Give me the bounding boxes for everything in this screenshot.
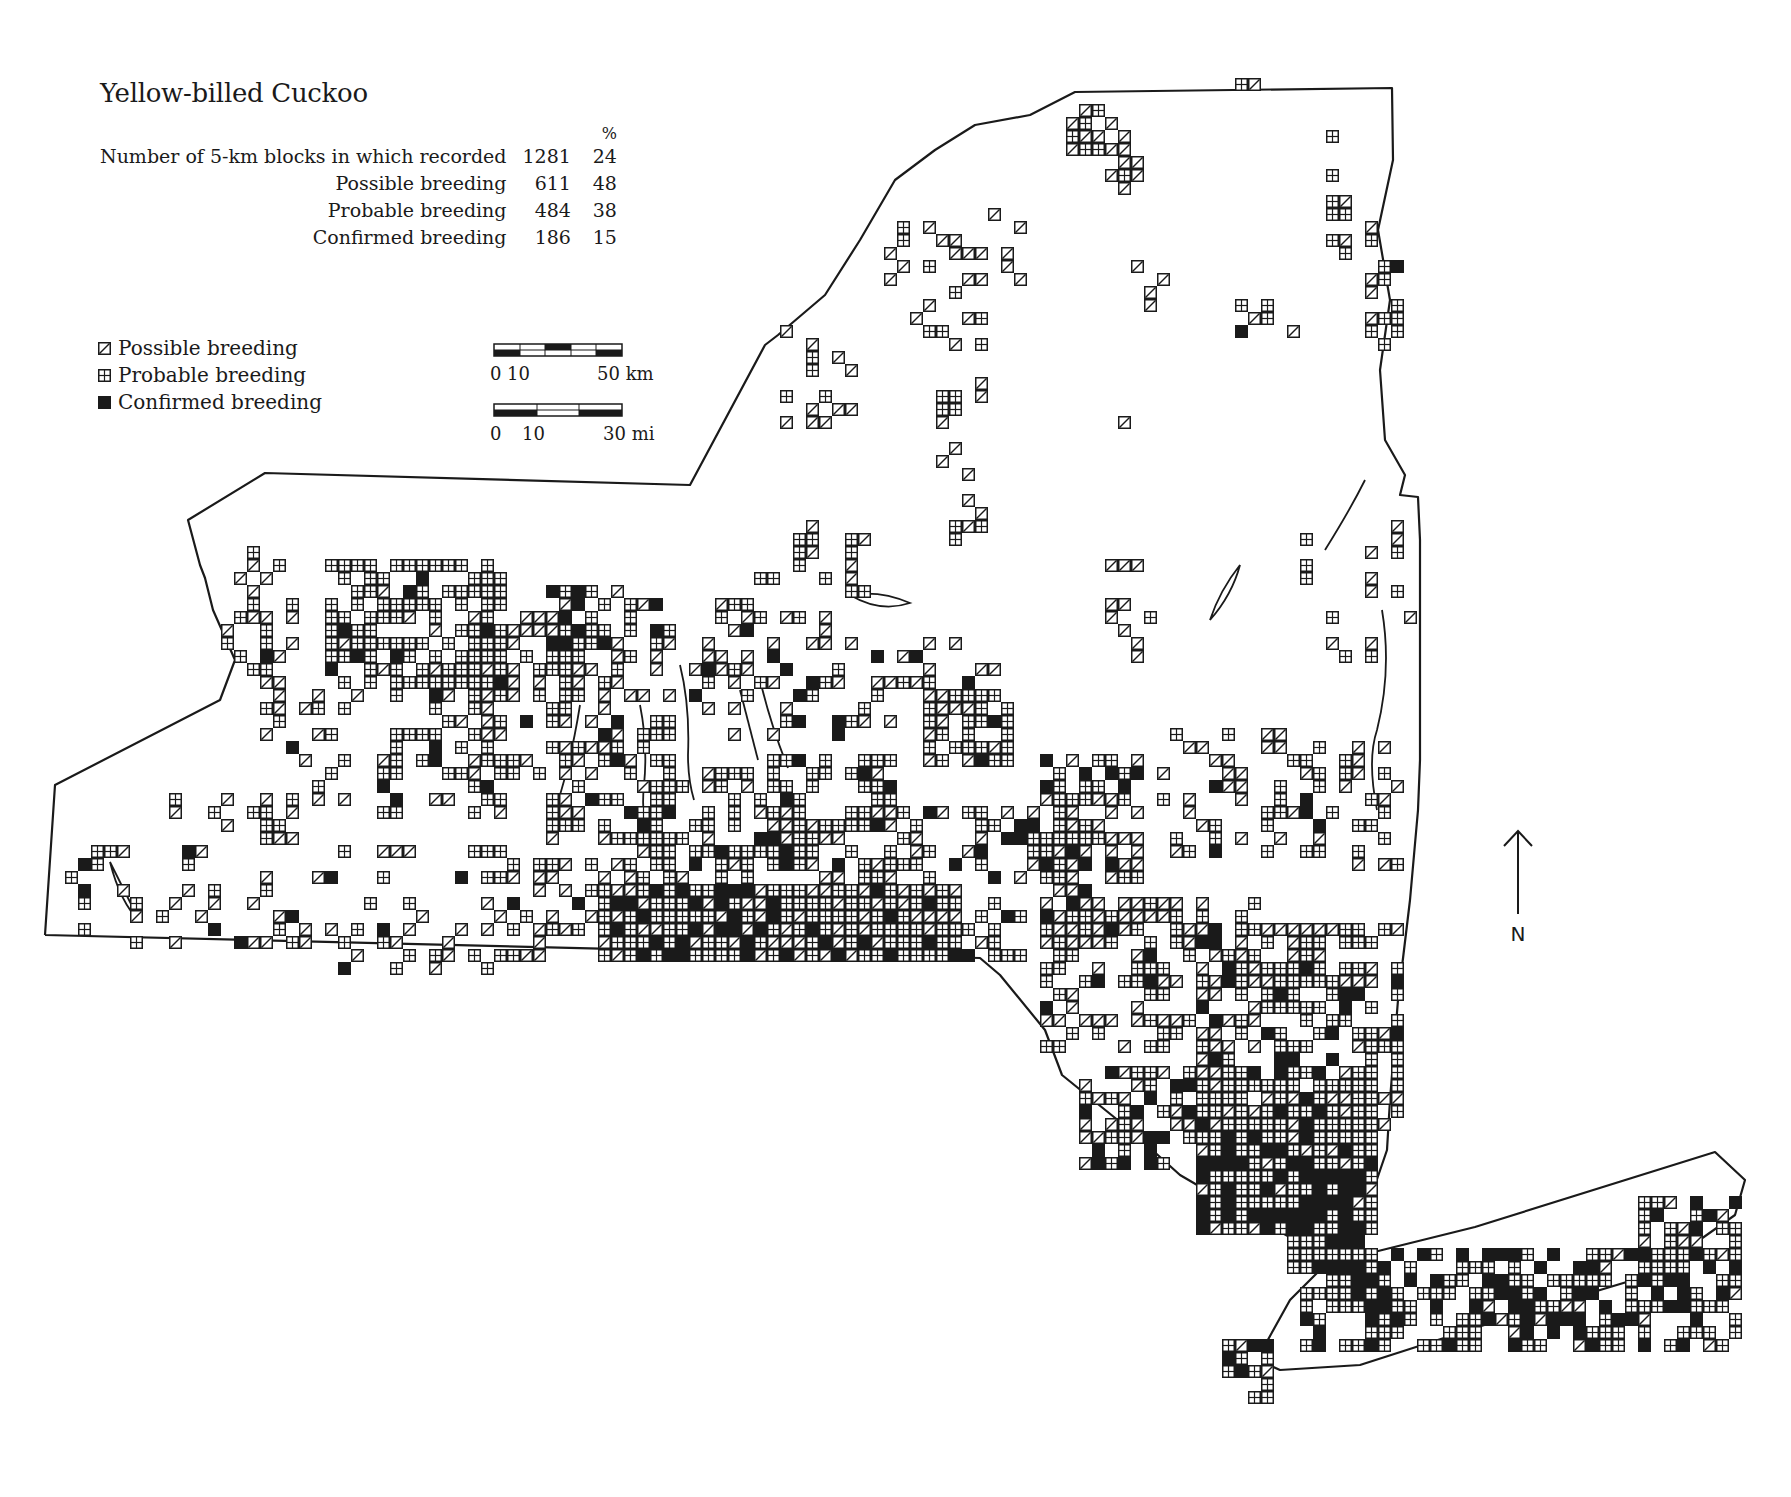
probable-block <box>1366 1249 1378 1261</box>
confirmed-block <box>1287 1222 1300 1235</box>
possible-block <box>1054 885 1066 897</box>
probable-block <box>1119 1145 1131 1157</box>
possible-block <box>638 690 650 702</box>
possible-block <box>820 638 832 650</box>
probable-block <box>1366 1145 1378 1157</box>
probable-block <box>248 599 260 611</box>
probable-block <box>1249 1119 1261 1131</box>
probable-block <box>1236 989 1248 1001</box>
probable-block <box>417 599 429 611</box>
probable-block <box>1184 950 1196 962</box>
possible-block <box>521 755 533 767</box>
possible-block <box>781 417 793 429</box>
possible-block <box>1509 1327 1521 1339</box>
probable-block <box>1366 794 1378 806</box>
possible-block <box>378 755 390 767</box>
confirmed-block <box>1391 260 1404 273</box>
probable-block <box>547 664 559 676</box>
probable-block <box>1587 1249 1599 1261</box>
probable-block <box>612 794 624 806</box>
probable-breeding-icon <box>98 369 111 382</box>
confirmed-block <box>1209 1157 1222 1170</box>
probable-block <box>1340 924 1352 936</box>
probable-block <box>625 612 637 624</box>
possible-block <box>1067 755 1079 767</box>
probable-block <box>1366 937 1378 949</box>
possible-block <box>573 664 585 676</box>
possible-block <box>1392 924 1404 936</box>
probable-block <box>1314 1093 1326 1105</box>
confirmed-block <box>572 624 585 637</box>
confirmed-block <box>689 923 702 936</box>
probable-block <box>1587 1275 1599 1287</box>
probable-block <box>508 859 520 871</box>
probable-block <box>1041 924 1053 936</box>
possible-block <box>1158 898 1170 910</box>
possible-block <box>417 911 429 923</box>
probable-block <box>1353 1106 1365 1118</box>
possible-block <box>521 612 533 624</box>
probable-block <box>1457 1314 1469 1326</box>
possible-block <box>963 248 975 260</box>
probable-block <box>924 261 936 273</box>
confirmed-block <box>1313 1066 1326 1079</box>
probable-block <box>937 885 949 897</box>
probable-block <box>365 898 377 910</box>
probable-block <box>1327 1288 1339 1300</box>
probable-block <box>1457 1275 1469 1287</box>
probable-block <box>911 820 923 832</box>
possible-block <box>781 833 793 845</box>
confirmed-block <box>1287 1157 1300 1170</box>
confirmed-block <box>650 936 663 949</box>
probable-block <box>664 755 676 767</box>
possible-block <box>1067 118 1079 130</box>
possible-block <box>560 794 572 806</box>
confirmed-block <box>572 598 585 611</box>
possible-block <box>820 833 832 845</box>
probable-block <box>885 859 897 871</box>
probable-block <box>469 690 481 702</box>
probable-block <box>365 573 377 585</box>
probable-block <box>1327 1301 1339 1313</box>
probable-block <box>820 573 832 585</box>
possible-block <box>1184 937 1196 949</box>
confirmed-block <box>429 754 442 767</box>
probable-block <box>1301 1015 1313 1027</box>
probable-block <box>1093 781 1105 793</box>
probable-block <box>846 716 858 728</box>
probable-block <box>703 846 715 858</box>
possible-block <box>872 898 884 910</box>
probable-block <box>1301 1041 1313 1053</box>
possible-block <box>1132 950 1144 962</box>
probable-block <box>1366 1288 1378 1300</box>
confirmed-block <box>1573 1261 1586 1274</box>
probable-block <box>872 781 884 793</box>
possible-block <box>898 651 910 663</box>
probable-block <box>1470 1327 1482 1339</box>
probable-block <box>1340 768 1352 780</box>
probable-block <box>1340 1015 1352 1027</box>
confirmed-block <box>481 624 494 637</box>
possible-block <box>742 651 754 663</box>
confirmed-block <box>1196 1001 1209 1014</box>
probable-block <box>937 937 949 949</box>
confirmed-block <box>793 715 806 728</box>
possible-block <box>755 898 767 910</box>
probable-block <box>482 794 494 806</box>
confirmed-block <box>507 897 520 910</box>
possible-block <box>1262 1158 1274 1170</box>
possible-block <box>1379 859 1391 871</box>
probable-block <box>599 794 611 806</box>
possible-block <box>1327 638 1339 650</box>
confirmed-block <box>1495 1248 1508 1261</box>
probable-block <box>1353 937 1365 949</box>
probable-block <box>846 547 858 559</box>
possible-block <box>1106 599 1118 611</box>
probable-block <box>1678 1249 1690 1261</box>
possible-block <box>1366 586 1378 598</box>
probable-block <box>443 768 455 780</box>
possible-block <box>482 664 494 676</box>
probable-block <box>339 651 351 663</box>
probable-block <box>521 651 533 663</box>
possible-block <box>1093 924 1105 936</box>
